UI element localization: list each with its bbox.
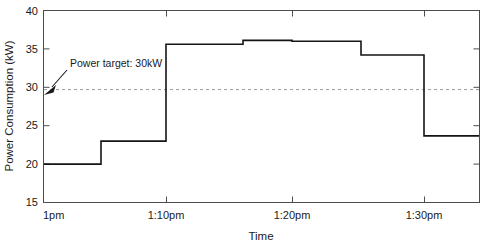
y-tick-label-20: 20: [26, 158, 38, 170]
y-axis-tick-labels: 15 20 25 30 35 40: [26, 5, 38, 208]
x-tick-label-1pm: 1pm: [43, 209, 64, 221]
x-axis-title: Time: [248, 230, 273, 242]
annotation-label: Power target: 30kW: [70, 57, 162, 69]
power-consumption-chart-figure: 15 20 25 30 35 40 1pm 1:10pm 1:20pm 1:30…: [0, 0, 491, 250]
y-tick-label-15: 15: [26, 196, 38, 208]
x-tick-label-110pm: 1:10pm: [148, 209, 185, 221]
x-tick-label-130pm: 1:30pm: [406, 209, 443, 221]
y-tick-label-35: 35: [26, 43, 38, 55]
y-tick-label-30: 30: [26, 81, 38, 93]
x-axis-ticks: [167, 11, 425, 203]
x-tick-label-120pm: 1:20pm: [274, 209, 311, 221]
annotation-arrow-shaft: [52, 70, 67, 87]
y-axis-ticks: [44, 11, 480, 203]
y-tick-label-40: 40: [26, 5, 38, 17]
y-tick-label-25: 25: [26, 119, 38, 131]
chart-canvas: 15 20 25 30 35 40 1pm 1:10pm 1:20pm 1:30…: [0, 0, 491, 250]
x-axis-tick-labels: 1pm 1:10pm 1:20pm 1:30pm: [43, 209, 442, 221]
power-target-annotation: Power target: 30kW: [44, 57, 162, 95]
y-axis-title: Power Consumption (kW): [3, 40, 15, 171]
plot-frame: [44, 11, 480, 203]
